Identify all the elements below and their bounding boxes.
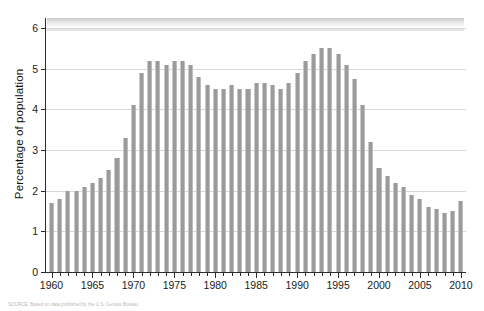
y-tick-label-2: 2 [12, 186, 38, 196]
y-tick-label-4: 4 [12, 104, 38, 114]
bar [442, 213, 447, 272]
x-tick-1967 [109, 272, 110, 276]
bar [164, 65, 169, 272]
x-tick-label-1985: 1985 [245, 280, 268, 291]
bar [114, 158, 119, 272]
x-tick-1962 [68, 272, 69, 276]
x-tick-1972 [150, 272, 151, 276]
bar [360, 105, 365, 272]
bar [123, 138, 128, 272]
x-tick-2002 [395, 272, 396, 276]
bar [286, 83, 291, 272]
x-tick-1995 [338, 272, 339, 278]
bar [336, 54, 341, 272]
x-tick-1997 [354, 272, 355, 276]
chart-figure: Percentage of population 0123456 1960196… [0, 0, 484, 311]
x-tick-1973 [158, 272, 159, 276]
x-tick-2004 [412, 272, 413, 276]
bar [57, 199, 62, 272]
x-tick-1979 [207, 272, 208, 276]
x-tick-label-1990: 1990 [285, 280, 308, 291]
bar [254, 83, 259, 272]
x-tick-2007 [436, 272, 437, 276]
bar [450, 211, 455, 272]
y-tick-3 [41, 150, 46, 151]
x-tick-1977 [191, 272, 192, 276]
x-tick-label-2005: 2005 [408, 280, 431, 291]
bar [131, 105, 136, 272]
x-tick-label-1970: 1970 [122, 280, 145, 291]
y-tick-label-1: 1 [12, 226, 38, 236]
x-tick-2005 [420, 272, 421, 278]
x-tick-1996 [346, 272, 347, 276]
bar [213, 89, 218, 272]
bar [458, 201, 463, 272]
bar [196, 77, 201, 272]
y-tick-6 [41, 28, 46, 29]
x-tick-label-1965: 1965 [81, 280, 104, 291]
bar [409, 195, 414, 272]
bar [434, 209, 439, 272]
x-tick-1974 [166, 272, 167, 276]
bars-and-gridlines [46, 28, 466, 272]
x-tick-1969 [125, 272, 126, 276]
bar [311, 54, 316, 272]
bar [221, 89, 226, 272]
x-tick-1988 [281, 272, 282, 276]
bar [155, 61, 160, 272]
bar [106, 170, 111, 272]
x-tick-1999 [371, 272, 372, 276]
bar [352, 79, 357, 272]
bar [417, 199, 422, 272]
x-tick-label-1975: 1975 [163, 280, 186, 291]
x-tick-1971 [142, 272, 143, 276]
x-tick-1981 [223, 272, 224, 276]
y-tick-label-0: 0 [12, 267, 38, 277]
x-tick-1992 [314, 272, 315, 276]
x-tick-2000 [379, 272, 380, 278]
bar [82, 187, 87, 272]
bar [74, 191, 79, 272]
x-tick-label-1995: 1995 [326, 280, 349, 291]
x-tick-1983 [240, 272, 241, 276]
bar [147, 61, 152, 272]
y-tick-4 [41, 109, 46, 110]
x-tick-1998 [363, 272, 364, 276]
x-tick-1993 [322, 272, 323, 276]
x-tick-label-1960: 1960 [40, 280, 63, 291]
x-tick-1987 [273, 272, 274, 276]
bar [278, 89, 283, 272]
bar [229, 85, 234, 272]
x-tick-1975 [174, 272, 175, 278]
x-tick-2008 [445, 272, 446, 276]
bar [237, 89, 242, 272]
plot-area [46, 18, 466, 272]
bar [172, 61, 177, 272]
x-tick-1961 [60, 272, 61, 276]
x-tick-1991 [305, 272, 306, 276]
gridline-6 [46, 28, 466, 29]
bar [393, 183, 398, 272]
bar [90, 183, 95, 272]
bar [319, 48, 324, 272]
x-tick-1960 [52, 272, 53, 278]
bar [98, 178, 103, 272]
x-tick-1978 [199, 272, 200, 276]
bar [262, 83, 267, 272]
x-tick-2010 [461, 272, 462, 278]
x-tick-1963 [76, 272, 77, 276]
bar [327, 48, 332, 272]
x-tick-2003 [404, 272, 405, 276]
bar [180, 61, 185, 272]
bar [270, 85, 275, 272]
x-tick-1964 [84, 272, 85, 276]
bar [376, 168, 381, 272]
x-tick-label-2000: 2000 [367, 280, 390, 291]
y-axis-tick-labels: 0123456 [6, 0, 38, 311]
y-tick-0 [41, 272, 46, 273]
bar [188, 65, 193, 272]
x-tick-1970 [133, 272, 134, 278]
bar [426, 207, 431, 272]
bar [344, 65, 349, 272]
bar [139, 73, 144, 272]
